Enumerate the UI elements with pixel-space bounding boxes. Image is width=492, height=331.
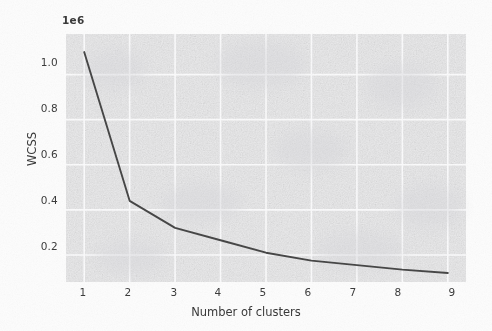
y-tick-label-3: 0.6 [30,148,58,160]
y-tick-label-2: 0.4 [30,194,58,206]
y-tick-label-1: 0.2 [30,240,58,252]
x-tick-label-6: 6 [296,286,320,298]
x-tick-label-2: 2 [116,286,140,298]
x-tick-label-4: 4 [206,286,230,298]
x-tick-label-3: 3 [162,286,186,298]
x-tick-label-8: 8 [386,286,410,298]
x-axis-title: Number of clusters [0,305,492,319]
elbow-method-chart: 1e6 WCSS Number of clusters 1.0 0.8 0.6 … [0,0,492,331]
x-tick-label-7: 7 [341,286,365,298]
y-axis-exponent-label: 1e6 [62,14,85,26]
plot-area [66,34,466,282]
x-tick-label-1: 1 [71,286,95,298]
y-tick-label-4: 0.8 [30,102,58,114]
y-tick-label-5: 1.0 [30,56,58,68]
x-tick-label-9: 9 [440,286,464,298]
wcss-elbow-line [66,34,466,282]
x-tick-label-5: 5 [251,286,275,298]
